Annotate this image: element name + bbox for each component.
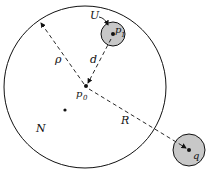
n-point [63,108,66,111]
label-r: R [120,114,129,127]
label-d: d [90,53,97,66]
label-p0: p [76,88,83,99]
p0-point [84,84,88,88]
label-n: N [35,122,46,135]
label-q: q [193,150,199,161]
neighborhood-diagram: U p 1 ρ d p 0 R N q [0,0,211,176]
label-p0-sub: 0 [83,94,88,102]
label-u: U [90,9,100,22]
label-rho: ρ [54,53,62,66]
r-line [89,89,186,148]
label-p1-sub: 1 [121,31,125,39]
q-point [187,148,191,152]
